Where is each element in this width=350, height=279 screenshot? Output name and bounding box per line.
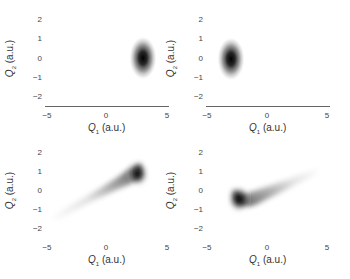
y-tick: 0 xyxy=(28,55,42,63)
y-tick: 2 xyxy=(189,149,203,157)
y-tick: −1 xyxy=(189,74,203,82)
y-tick: 0 xyxy=(28,187,42,195)
y-tick: 1 xyxy=(189,168,203,176)
x-axis-line xyxy=(206,106,330,107)
y-tick: 2 xyxy=(28,149,42,157)
density-plot-bottom-right xyxy=(206,142,330,238)
y-tick: −2 xyxy=(28,225,42,233)
y-tick: 0 xyxy=(189,187,203,195)
x-tick: −5 xyxy=(199,112,215,120)
y-tick: −1 xyxy=(28,206,42,214)
panel-top-left: 2 1 0 −1 −2 −5 0 5 Q1 (a.u.) Q2 (a.u.) xyxy=(0,0,175,140)
y-tick: −1 xyxy=(28,74,42,82)
x-tick: 0 xyxy=(259,244,275,252)
y-tick: −2 xyxy=(28,93,42,101)
y-tick: −2 xyxy=(189,225,203,233)
y-axis-label: Q2 (a.u.) xyxy=(4,40,17,77)
x-axis-label: Q1 (a.u.) xyxy=(249,122,286,135)
x-axis-line xyxy=(45,106,169,107)
y-tick: −2 xyxy=(189,93,203,101)
y-tick: 1 xyxy=(28,35,42,43)
panel-bottom-left: 2 1 0 −1 −2 −5 0 5 Q1 (a.u.) Q2 (a.u.) xyxy=(0,140,175,279)
x-tick: 5 xyxy=(159,244,175,252)
x-tick: 0 xyxy=(98,112,114,120)
x-tick: 5 xyxy=(319,112,335,120)
y-tick: 1 xyxy=(28,168,42,176)
y-axis-label: Q2 (a.u.) xyxy=(165,172,178,209)
density-plot-top-left xyxy=(45,10,169,106)
y-tick: 2 xyxy=(189,16,203,24)
y-tick: 0 xyxy=(189,55,203,63)
y-tick: 2 xyxy=(28,16,42,24)
x-tick: 0 xyxy=(98,244,114,252)
y-axis-label: Q2 (a.u.) xyxy=(4,172,17,209)
x-tick: 0 xyxy=(259,112,275,120)
x-tick: −5 xyxy=(39,244,55,252)
x-tick: −5 xyxy=(199,244,215,252)
y-tick: −1 xyxy=(189,206,203,214)
density-plot-bottom-left xyxy=(45,142,169,238)
y-axis-label: Q2 (a.u.) xyxy=(165,40,178,77)
x-axis-label: Q1 (a.u.) xyxy=(88,122,125,135)
x-tick: −5 xyxy=(39,112,55,120)
density-plot-top-right xyxy=(206,10,330,106)
panel-top-right: 2 1 0 −1 −2 −5 0 5 Q1 (a.u.) Q2 (a.u.) xyxy=(175,0,350,140)
y-tick: 1 xyxy=(189,35,203,43)
x-axis-label: Q1 (a.u.) xyxy=(88,254,125,267)
x-tick: 5 xyxy=(159,112,175,120)
panel-bottom-right: 2 1 0 −1 −2 −5 0 5 Q1 (a.u.) Q2 (a.u.) xyxy=(175,140,350,279)
x-axis-label: Q1 (a.u.) xyxy=(249,254,286,267)
x-tick: 5 xyxy=(319,244,335,252)
